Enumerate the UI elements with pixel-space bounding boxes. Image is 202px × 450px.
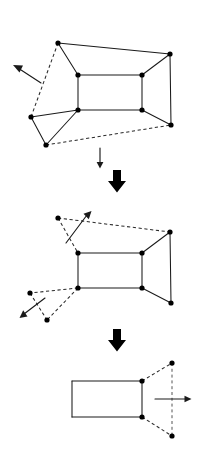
unfolding-sequence-diagram — [0, 0, 202, 450]
edge-top-right-apex-to-inner-top-right — [142, 54, 170, 75]
stage-1-group — [13, 40, 174, 147]
edge-inner-bottom-left-to-left-apex — [31, 110, 78, 117]
vertex-left-apex — [28, 114, 33, 119]
vertex-top-left-apex — [55, 215, 60, 220]
vertex-left-apex — [27, 290, 32, 295]
stage-1-solid-edges — [31, 43, 171, 145]
stage-1-dashed-edges — [31, 43, 171, 145]
vertex-inner-bottom-right — [139, 107, 144, 112]
edge-inner-bottom-left-to-left-apex — [30, 288, 78, 293]
edge-top-left-apex-to-left-apex — [31, 43, 58, 117]
transition-arrow-bold-1 — [108, 170, 126, 193]
stage-2-group — [20, 211, 174, 323]
edge-top-left-apex-to-inner-top-left — [58, 43, 78, 75]
vertex-flap-top-apex — [169, 360, 174, 365]
edge-top-left-apex-to-top-right-apex — [58, 218, 170, 232]
vertex-rect-top-right — [139, 378, 144, 383]
edge-top-left-apex-to-top-right-apex — [58, 43, 170, 54]
edge-rect-top-right-to-flap-top-apex — [142, 363, 172, 381]
edge-top-right-apex-to-bottom-right-apex — [170, 54, 171, 125]
edge-inner-bottom-right-to-bottom-right-apex — [142, 288, 171, 303]
vertex-inner-top-right — [139, 250, 144, 255]
vertex-inner-bottom-left — [75, 285, 80, 290]
stage-2-dashed-edges — [30, 218, 170, 320]
vertex-top-left-apex — [55, 40, 60, 45]
motion-arrow-down-left — [20, 298, 46, 318]
vertex-inner-bottom-right — [139, 285, 144, 290]
vertex-flap-bottom-apex — [169, 433, 174, 438]
motion-arrow-right — [155, 396, 192, 402]
vertex-inner-top-left — [75, 250, 80, 255]
motion-arrow-up-left — [13, 65, 41, 83]
vertex-rect-bottom-right — [139, 414, 144, 419]
vertex-bottom-left-apex — [43, 142, 48, 147]
edge-bottom-left-apex-to-bottom-right-apex — [46, 125, 171, 145]
vertex-top-right-apex — [167, 229, 172, 234]
edge-left-apex-to-bottom-left-apex — [31, 117, 46, 145]
stage-2-vertices — [27, 215, 173, 322]
vertex-top-right-apex — [167, 51, 172, 56]
transition-arrow-thin — [97, 148, 104, 169]
vertex-bottom-right-apex — [168, 122, 173, 127]
edge-inner-top-right-to-top-right-apex — [142, 232, 170, 253]
vertex-inner-bottom-left — [75, 107, 80, 112]
vertex-bottom-left-apex — [44, 317, 49, 322]
vertex-bottom-right-apex — [168, 300, 173, 305]
stage-2-solid-edges — [78, 232, 171, 303]
edge-inner-bottom-left-to-bottom-left-apex — [46, 110, 78, 145]
stage-1-vertices — [28, 40, 173, 147]
motion-arrow-up-right — [66, 211, 92, 243]
stage-3-group — [72, 360, 192, 438]
edge-inner-bottom-left-to-bottom-left-apex — [47, 288, 78, 320]
edge-left-apex-to-bottom-left-apex — [30, 293, 47, 320]
edge-rect-bottom-right-to-flap-bottom-apex — [142, 417, 172, 436]
edge-inner-bottom-right-to-bottom-right-apex — [142, 110, 171, 125]
edge-top-right-apex-to-bottom-right-apex — [170, 232, 171, 303]
edge-top-left-apex-to-inner-top-left — [58, 218, 78, 253]
stage-3-solid-edges — [72, 381, 142, 417]
transition-arrow-bold-2 — [108, 329, 126, 352]
vertex-inner-top-right — [139, 72, 144, 77]
vertex-inner-top-left — [75, 72, 80, 77]
diagram-canvas — [0, 0, 202, 450]
